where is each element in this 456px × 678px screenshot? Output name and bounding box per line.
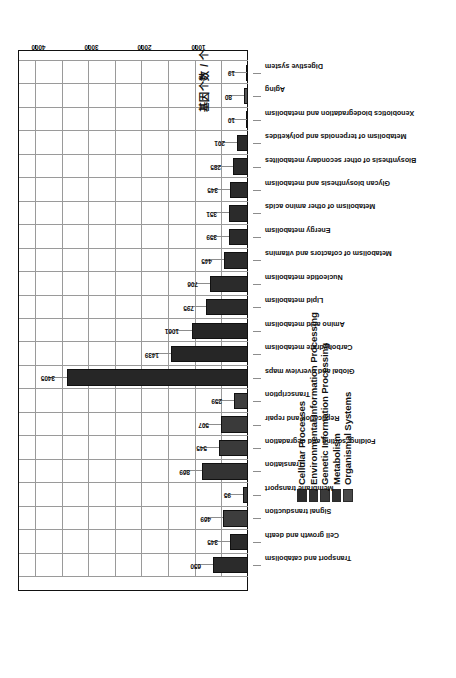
bar-value-label: 869 bbox=[179, 469, 190, 476]
x-axis-tick-mark bbox=[253, 73, 261, 74]
bar[interactable] bbox=[230, 534, 248, 550]
bar-value-label: 285 bbox=[210, 164, 221, 171]
chart-page: Cellular ProcessesEnvironmental Informat… bbox=[0, 0, 456, 678]
x-axis-tick-mark bbox=[253, 425, 261, 426]
bar-value-label: 351 bbox=[207, 211, 218, 218]
x-axis-category-label: Translation bbox=[265, 460, 303, 469]
bar[interactable] bbox=[192, 323, 249, 339]
bar[interactable] bbox=[229, 229, 248, 245]
x-axis-tick-mark bbox=[253, 378, 261, 379]
bar-value-label: 19 bbox=[228, 70, 235, 77]
bar[interactable] bbox=[233, 158, 248, 174]
bar-series: 6503454699586954550725934051439106179570… bbox=[19, 61, 248, 577]
x-axis-tick-mark bbox=[253, 331, 261, 332]
bar[interactable] bbox=[206, 299, 248, 315]
x-axis-category-label: Cell growth and death bbox=[265, 531, 339, 540]
bar[interactable] bbox=[229, 205, 248, 221]
x-axis-tick-mark bbox=[253, 213, 261, 214]
x-axis-category-label: Global and overview maps bbox=[265, 367, 354, 376]
x-axis-category-label: Folding, sorting and degradation bbox=[265, 437, 376, 446]
x-axis-tick-mark bbox=[253, 495, 261, 496]
bar[interactable] bbox=[213, 557, 248, 573]
x-axis-category-label: Energy metabolism bbox=[265, 226, 330, 235]
bar-value-label: 545 bbox=[196, 445, 207, 452]
x-axis-tick-mark bbox=[253, 542, 261, 543]
bar[interactable] bbox=[210, 276, 248, 292]
bar[interactable] bbox=[221, 416, 248, 432]
bar-value-label: 650 bbox=[191, 563, 202, 570]
plot-panel: 6503454699586954550725934051439106179570… bbox=[18, 50, 248, 591]
x-axis-category-label: Transcription bbox=[265, 390, 310, 399]
x-axis-tick-mark bbox=[253, 167, 261, 168]
x-axis-category-label: Lipid metabolism bbox=[265, 296, 323, 305]
bar-value-label: 345 bbox=[207, 187, 218, 194]
bar-value-label: 706 bbox=[188, 281, 199, 288]
bar[interactable] bbox=[223, 510, 248, 526]
x-axis-tick-mark bbox=[253, 237, 261, 238]
bar[interactable] bbox=[202, 463, 248, 479]
x-axis-category-label: Membrane transport bbox=[265, 484, 334, 493]
bar[interactable] bbox=[67, 369, 248, 385]
bar-value-label: 3405 bbox=[41, 375, 55, 382]
x-axis-tick-mark bbox=[253, 120, 261, 121]
x-axis-category-label: Xenobiotics biodegradation and metabolis… bbox=[265, 109, 414, 118]
bar-value-label: 1439 bbox=[145, 352, 159, 359]
x-axis-tick-mark bbox=[253, 96, 261, 97]
bar[interactable] bbox=[234, 393, 248, 409]
bar-value-label: 469 bbox=[200, 516, 211, 523]
x-axis-tick-mark bbox=[253, 307, 261, 308]
x-axis-category-label: Signal transduction bbox=[265, 507, 331, 516]
bar[interactable] bbox=[237, 135, 248, 151]
x-axis-tick-mark bbox=[253, 518, 261, 519]
x-axis-category-labels: Transport and catabolismCell growth and … bbox=[253, 62, 453, 578]
x-axis-category-label: Biosynthesis of other secondary metaboli… bbox=[265, 156, 416, 165]
x-axis-category-label: Nucleotide metabolism bbox=[265, 273, 343, 282]
bar-value-label: 445 bbox=[202, 258, 213, 265]
x-axis-tick-mark bbox=[253, 190, 261, 191]
bar[interactable] bbox=[230, 182, 248, 198]
y-axis-tick-label: 4000 bbox=[32, 44, 46, 51]
x-axis-tick-mark bbox=[253, 471, 261, 472]
x-axis-category-label: Glycan biosynthesis and metabolism bbox=[265, 179, 390, 188]
bar[interactable] bbox=[246, 65, 248, 81]
y-axis-tick-label: 3000 bbox=[85, 44, 99, 51]
bar-value-label: 345 bbox=[207, 539, 218, 546]
bar[interactable] bbox=[171, 346, 248, 362]
x-axis-tick-mark bbox=[253, 448, 261, 449]
y-axis-label: 基因个数 / 个 bbox=[196, 50, 211, 112]
bar-value-label: 259 bbox=[212, 399, 223, 406]
bar-value-label: 507 bbox=[198, 422, 209, 429]
bar[interactable] bbox=[243, 487, 248, 503]
bar[interactable] bbox=[246, 111, 248, 127]
x-axis-category-label: Metabolism of terpenoids and polyketides bbox=[265, 132, 406, 141]
x-axis-category-label: Carbohydrate metabolism bbox=[265, 343, 353, 352]
bar[interactable] bbox=[224, 252, 248, 268]
x-axis-category-label: Metabolism of other amino acids bbox=[265, 202, 375, 211]
x-axis-tick-mark bbox=[253, 565, 261, 566]
bar-value-label: 95 bbox=[224, 492, 231, 499]
x-axis-category-label: Aging bbox=[265, 85, 285, 94]
x-axis-tick-mark bbox=[253, 143, 261, 144]
x-axis-tick-mark bbox=[253, 284, 261, 285]
x-axis-category-label: Metabolism of cofactors and vitamins bbox=[265, 249, 392, 258]
x-axis-tick-mark bbox=[253, 354, 261, 355]
y-axis-tick-label: 2000 bbox=[138, 44, 152, 51]
bar[interactable] bbox=[219, 440, 248, 456]
x-axis-category-label: Amino acid metabolism bbox=[265, 320, 345, 329]
x-axis-category-label: Transport and catabolism bbox=[265, 554, 351, 563]
bar[interactable] bbox=[244, 88, 248, 104]
x-axis-category-label: Replication and repair bbox=[265, 414, 339, 423]
figure-canvas: Cellular ProcessesEnvironmental Informat… bbox=[0, 0, 456, 678]
rotated-figure-wrapper: Cellular ProcessesEnvironmental Informat… bbox=[0, 0, 456, 678]
x-axis-tick-mark bbox=[253, 260, 261, 261]
plot-area: 6503454699586954550725934051439106179570… bbox=[19, 61, 248, 577]
x-axis-category-label: Digestive system bbox=[265, 62, 323, 71]
bar-value-label: 201 bbox=[215, 141, 226, 148]
bar-value-label: 359 bbox=[206, 234, 217, 241]
bar-value-label: 1061 bbox=[165, 328, 179, 335]
bar-value-label: 10 bbox=[228, 117, 235, 124]
bar-value-label: 80 bbox=[225, 94, 232, 101]
x-axis-tick-mark bbox=[253, 401, 261, 402]
bar-value-label: 795 bbox=[183, 305, 194, 312]
